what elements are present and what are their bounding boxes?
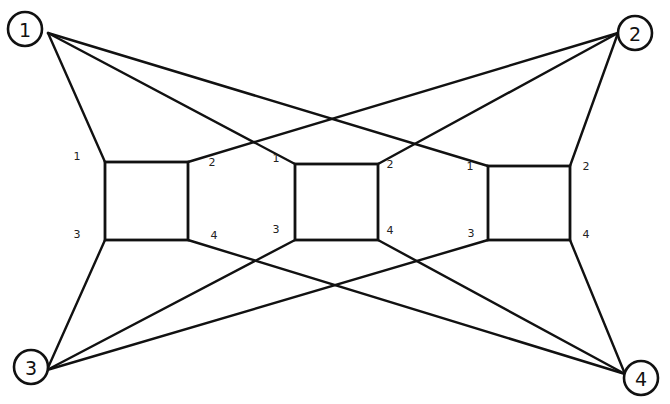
- box-b-rect: [295, 164, 378, 240]
- box-b-port-label-3: 3: [273, 223, 280, 236]
- box-b-port-label-1: 1: [273, 152, 280, 165]
- boxes-layer: 123412341234: [74, 150, 590, 242]
- outer-node-2: 2: [618, 16, 652, 50]
- box-c-port-label-4: 4: [583, 228, 590, 241]
- outer-node-3: 3: [14, 350, 48, 384]
- edge-node2-box-c-port2: [570, 33, 618, 166]
- box-c-port-label-1: 1: [467, 160, 474, 173]
- edge-node3-box-a-port3: [47, 240, 105, 370]
- box-c-port-label-3: 3: [468, 227, 475, 240]
- edge-node2-box-a-port2: [188, 33, 618, 162]
- node-label-3: 3: [25, 357, 37, 379]
- box-c-rect: [488, 166, 570, 240]
- edge-node4-box-c-port4: [570, 240, 625, 374]
- outer-node-1: 1: [8, 12, 42, 46]
- node-label-2: 2: [629, 23, 641, 45]
- node-label-4: 4: [635, 368, 647, 390]
- box-a: 1234: [74, 150, 218, 242]
- outer-node-4: 4: [624, 361, 658, 395]
- box-c: 1234: [467, 160, 590, 241]
- edges-layer: [47, 33, 625, 374]
- box-a-port-label-4: 4: [211, 229, 218, 242]
- edge-node1-box-a-port1: [48, 33, 105, 162]
- edge-node1-box-c-port1: [48, 33, 488, 166]
- network-diagram: 123412341234 1234: [0, 0, 670, 404]
- box-a-port-label-1: 1: [74, 150, 81, 163]
- edge-node1-box-b-port1: [48, 33, 295, 164]
- box-a-port-label-3: 3: [74, 228, 81, 241]
- box-b-port-label-2: 2: [387, 158, 394, 171]
- box-a-port-label-2: 2: [209, 156, 216, 169]
- box-b-port-label-4: 4: [387, 224, 394, 237]
- edge-node4-box-b-port4: [378, 240, 625, 374]
- node-label-1: 1: [19, 19, 31, 41]
- edge-node2-box-b-port2: [378, 33, 618, 164]
- edge-node3-box-b-port3: [47, 240, 295, 370]
- box-a-rect: [105, 162, 188, 240]
- box-b: 1234: [273, 152, 394, 241]
- edge-node4-box-a-port4: [188, 240, 625, 374]
- edge-node3-box-c-port3: [47, 240, 488, 370]
- box-c-port-label-2: 2: [583, 160, 590, 173]
